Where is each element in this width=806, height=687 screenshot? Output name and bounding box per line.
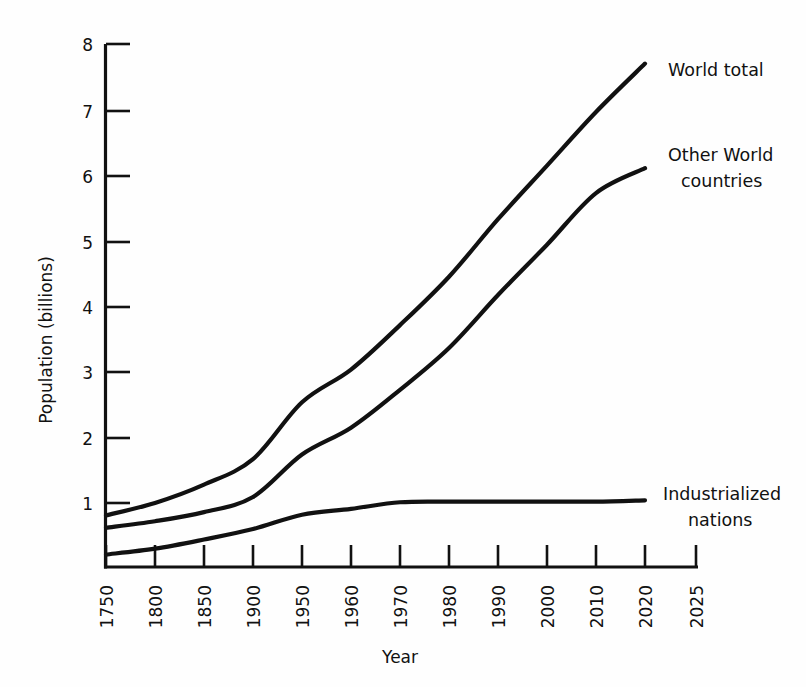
series-label-industrialized-nations-line2: nations: [688, 510, 752, 530]
y-tick-label-7: 7: [82, 102, 93, 122]
y-axis-title: Population (billions): [36, 256, 56, 424]
y-tick-label-5: 5: [82, 233, 93, 253]
x-tick-label-2020: 2020: [636, 585, 656, 628]
x-tick-label-1900: 1900: [244, 585, 264, 628]
x-tick-label-1750: 1750: [97, 585, 117, 628]
series-label-world-total: World total: [668, 60, 764, 80]
population-growth-chart: 8 7 6 5 4 3 2 1 1750 1800 1850 1900 1950…: [0, 0, 806, 687]
x-tick-label-1970: 1970: [391, 585, 411, 628]
series-label-other-world-countries-line2: countries: [681, 171, 762, 191]
y-tick-label-3: 3: [82, 363, 93, 383]
x-tick-label-1800: 1800: [146, 585, 166, 628]
y-tick-label-4: 4: [82, 298, 93, 318]
series-label-industrialized-nations-line1: Industrialized: [663, 484, 781, 504]
y-tick-label-8: 8: [82, 35, 93, 55]
x-tick-label-2025: 2025: [687, 585, 707, 628]
y-tick-label-2: 2: [82, 429, 93, 449]
x-tick-label-1850: 1850: [195, 585, 215, 628]
x-tick-label-2010: 2010: [587, 585, 607, 628]
x-tick-label-1990: 1990: [489, 585, 509, 628]
x-tick-label-1950: 1950: [293, 585, 313, 628]
x-tick-label-2000: 2000: [538, 585, 558, 628]
series-label-other-world-countries-line1: Other World: [668, 145, 773, 165]
chart-background: [0, 0, 806, 687]
x-tick-label-1980: 1980: [440, 585, 460, 628]
y-tick-label-1: 1: [82, 494, 93, 514]
x-axis-title: Year: [381, 647, 418, 667]
x-tick-label-1960: 1960: [342, 585, 362, 628]
y-tick-label-6: 6: [82, 167, 93, 187]
